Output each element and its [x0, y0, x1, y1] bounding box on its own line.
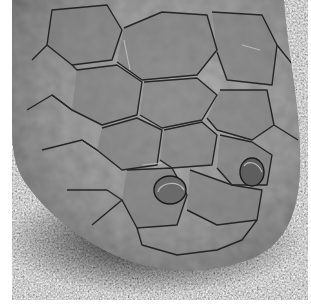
- nostril-left: [154, 176, 186, 204]
- photo-canvas: [12, 0, 308, 300]
- nostril-right: [240, 158, 264, 186]
- snake-head-photo: Close-up black-and-white photograph of a…: [12, 0, 308, 300]
